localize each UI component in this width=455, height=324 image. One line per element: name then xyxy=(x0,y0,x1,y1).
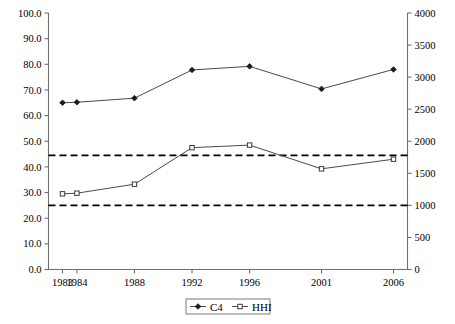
x-tick-label: 2001 xyxy=(311,277,332,288)
chart-background xyxy=(0,0,455,324)
line-chart: 0.010.020.030.040.050.060.070.080.090.01… xyxy=(0,0,455,324)
right-tick-label: 0 xyxy=(415,264,420,275)
x-tick-label: 2006 xyxy=(383,277,404,288)
chart-container: 0.010.020.030.040.050.060.070.080.090.01… xyxy=(0,0,455,324)
left-tick-label: 20.0 xyxy=(23,213,41,224)
right-tick-label: 3000 xyxy=(415,72,436,83)
right-tick-label: 500 xyxy=(415,232,431,243)
data-point-marker xyxy=(60,192,64,196)
left-tick-label: 10.0 xyxy=(23,238,41,249)
left-tick-label: 40.0 xyxy=(23,162,41,173)
data-point-marker xyxy=(247,143,251,147)
data-point-marker xyxy=(391,157,395,161)
chart-legend: C4HHI xyxy=(186,299,272,314)
data-point-marker xyxy=(75,191,79,195)
left-tick-label: 30.0 xyxy=(23,187,41,198)
legend-label-hhi: HHI xyxy=(252,301,272,313)
left-tick-label: 80.0 xyxy=(23,59,41,70)
data-point-marker xyxy=(132,182,136,186)
x-tick-label: 1996 xyxy=(239,277,260,288)
x-tick-label: 1984 xyxy=(66,277,88,288)
right-tick-label: 1000 xyxy=(415,200,436,211)
data-point-marker xyxy=(319,167,323,171)
right-tick-label: 2500 xyxy=(415,104,436,115)
data-point-marker xyxy=(238,304,242,308)
left-tick-label: 0.0 xyxy=(28,264,41,275)
right-tick-label: 3500 xyxy=(415,40,436,51)
right-tick-label: 1500 xyxy=(415,168,436,179)
left-tick-label: 70.0 xyxy=(23,85,41,96)
legend-label-c4: C4 xyxy=(210,301,223,313)
x-tick-label: 1992 xyxy=(182,277,203,288)
left-tick-label: 100.0 xyxy=(18,8,42,19)
data-point-marker xyxy=(190,145,194,149)
right-tick-label: 4000 xyxy=(415,8,436,19)
left-tick-label: 60.0 xyxy=(23,110,41,121)
left-tick-label: 50.0 xyxy=(23,136,41,147)
left-tick-label: 90.0 xyxy=(23,33,41,44)
right-tick-label: 2000 xyxy=(415,136,436,147)
x-tick-label: 1988 xyxy=(124,277,145,288)
